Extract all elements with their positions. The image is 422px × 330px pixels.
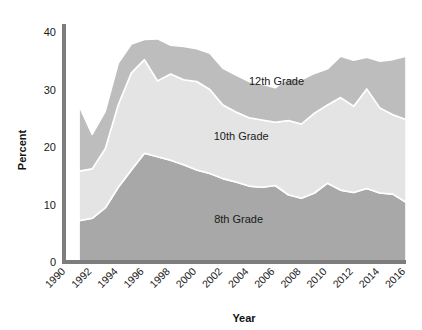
y-axis-line xyxy=(62,24,66,264)
y-tick-label: 40 xyxy=(44,26,56,38)
y-tick-label: 20 xyxy=(44,141,56,153)
y-tick-label: 30 xyxy=(44,84,56,96)
y-tick-label: 0 xyxy=(50,256,56,268)
y-tick-label: 10 xyxy=(44,199,56,211)
area-chart: 010203040 199019921994199619982000200220… xyxy=(0,0,422,330)
chart-canvas: 010203040 199019921994199619982000200220… xyxy=(0,0,422,330)
x-axis-line xyxy=(62,260,406,264)
12th-grade-label: 12th Grade xyxy=(249,75,304,87)
10th-grade-label: 10th Grade xyxy=(214,130,269,142)
x-axis-title: Year xyxy=(232,312,256,324)
8th-grade-label: 8th Grade xyxy=(214,213,263,225)
y-axis-title: Percent xyxy=(16,129,28,170)
